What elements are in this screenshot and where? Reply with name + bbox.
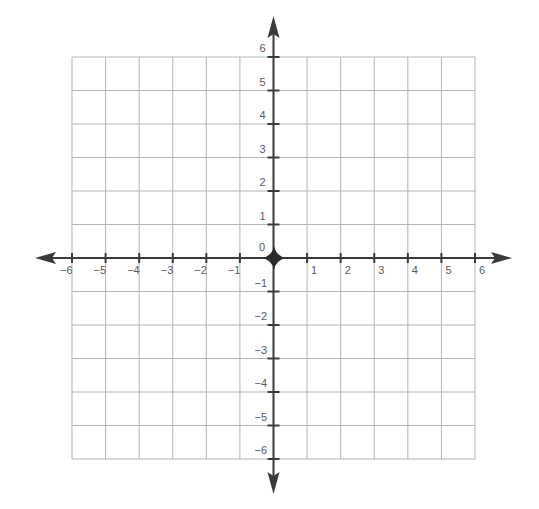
y-tick-label: 5 bbox=[260, 76, 266, 88]
x-tick-label: −1 bbox=[228, 264, 241, 276]
y-tick-label: −2 bbox=[255, 310, 268, 322]
y-tick-label: 4 bbox=[260, 109, 266, 121]
origin-label: 0 bbox=[259, 241, 265, 253]
x-tick-label: 5 bbox=[445, 264, 451, 276]
y-tick-label: 2 bbox=[260, 176, 266, 188]
x-tick-label: 3 bbox=[378, 264, 384, 276]
y-tick-label: −5 bbox=[255, 411, 268, 423]
x-tick-label: −5 bbox=[94, 264, 107, 276]
x-tick-label: −3 bbox=[161, 264, 174, 276]
origin-star-icon bbox=[262, 246, 286, 270]
x-tick-label: 6 bbox=[479, 264, 485, 276]
y-tick-label: −1 bbox=[255, 277, 268, 289]
x-tick-label: −2 bbox=[194, 264, 207, 276]
x-tick-label: 4 bbox=[412, 264, 418, 276]
y-tick-label: −6 bbox=[255, 444, 268, 456]
y-tick-label: 1 bbox=[260, 210, 266, 222]
y-tick-label: 3 bbox=[260, 143, 266, 155]
x-tick-label: −6 bbox=[60, 264, 73, 276]
y-tick-label: −4 bbox=[255, 377, 268, 389]
x-tick-label: −4 bbox=[127, 264, 140, 276]
x-tick-label: 1 bbox=[311, 264, 317, 276]
coordinate-plane: −6−5−4−3−2−1123456−6−5−4−3−2−1123456 0 bbox=[0, 0, 539, 509]
y-tick-label: 6 bbox=[260, 42, 266, 54]
x-tick-label: 2 bbox=[345, 264, 351, 276]
y-tick-label: −3 bbox=[255, 344, 268, 356]
